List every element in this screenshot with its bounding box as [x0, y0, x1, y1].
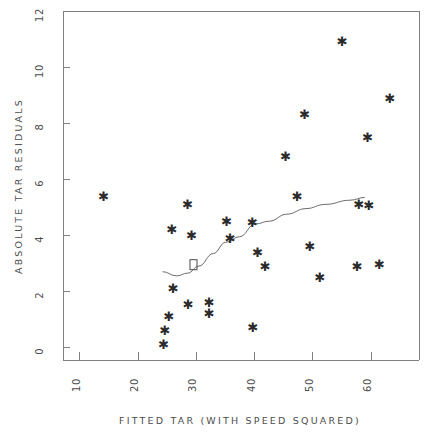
y-tick-label: 2	[34, 292, 45, 299]
y-axis-tick-labels: 024681012	[34, 8, 45, 355]
data-point-star: ✱	[167, 222, 178, 237]
y-tick-label: 4	[34, 236, 45, 243]
data-point-star: ✱	[305, 239, 316, 254]
data-point-star: ✱	[247, 320, 258, 335]
data-point-star: ✱	[337, 34, 348, 49]
x-tick-label: 50	[304, 378, 315, 392]
data-point-star: ✱	[225, 231, 236, 246]
data-point-star: ✱	[384, 91, 395, 106]
y-tick-label: 12	[34, 8, 45, 22]
data-point-star: ✱	[186, 228, 197, 243]
x-axis-ticks	[80, 352, 371, 360]
plot-canvas: 024681012 102030405060 ✱✱✱✱✱✱✱✱✱✱✱✱✱✱✱✱✱…	[0, 0, 428, 435]
y-axis-title: ABSOLUTE TAR RESIDUALS	[13, 98, 24, 274]
data-point-star: ✱	[299, 107, 310, 122]
data-point-star: ✱	[362, 130, 373, 145]
y-tick-label: 6	[34, 180, 45, 187]
x-axis-tick-labels: 102030405060	[71, 378, 373, 392]
x-tick-label: 10	[71, 378, 82, 392]
data-point-star: ✱	[352, 259, 363, 274]
data-point-star: ✱	[164, 309, 175, 324]
data-point-star: ✱	[363, 198, 374, 213]
data-point-star: ✱	[221, 214, 232, 229]
data-point-star: ✱	[260, 259, 271, 274]
data-point-star: ✱	[374, 257, 385, 272]
data-point-star: ✱	[182, 197, 193, 212]
plot-frame	[63, 11, 419, 360]
x-axis-title: FITTED TAR (WITH SPEED SQUARED)	[119, 415, 361, 426]
y-tick-label: 8	[34, 124, 45, 131]
scatter-plot-figure: 024681012 102030405060 ✱✱✱✱✱✱✱✱✱✱✱✱✱✱✱✱✱…	[0, 0, 428, 435]
x-tick-label: 60	[362, 378, 373, 392]
data-point-star: ✱	[314, 270, 325, 285]
data-point-star: ✱	[280, 149, 291, 164]
y-tick-label: 10	[34, 64, 45, 78]
data-point-star: ✱	[160, 323, 171, 338]
x-tick-label: 20	[129, 378, 140, 392]
data-point-star: ✱	[204, 306, 215, 321]
plot-box-border	[63, 11, 419, 360]
y-axis-ticks	[63, 11, 70, 347]
data-point-star: ✱	[168, 281, 179, 296]
data-point-box	[190, 260, 197, 270]
data-point-star: ✱	[292, 189, 303, 204]
data-points-layer: ✱✱✱✱✱✱✱✱✱✱✱✱✱✱✱✱✱✱✱✱✱✱✱✱✱✱✱✱✱	[98, 34, 395, 352]
data-point-star: ✱	[247, 215, 258, 230]
data-point-star: ✱	[252, 245, 263, 260]
x-tick-label: 40	[246, 378, 257, 392]
data-point-star: ✱	[183, 297, 194, 312]
x-tick-label: 30	[187, 378, 198, 392]
data-point-star: ✱	[98, 189, 109, 204]
y-tick-label: 0	[34, 348, 45, 355]
data-point-star: ✱	[158, 337, 169, 352]
